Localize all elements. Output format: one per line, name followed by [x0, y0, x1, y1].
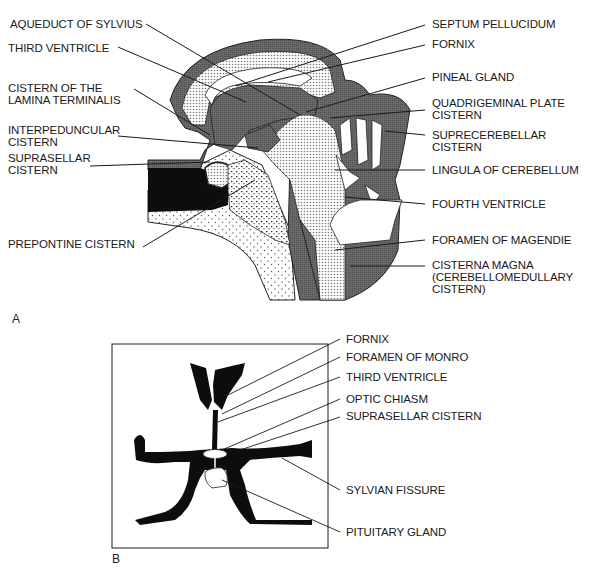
label-suprecerebellar-2: CISTERN: [432, 141, 482, 153]
pituitary-b: [205, 468, 227, 488]
label-prepontine: PREPONTINE CISTERN: [8, 238, 135, 250]
label-b-third-ventricle: THIRD VENTRICLE: [346, 371, 447, 383]
label-b-foramen-monro: FORAMEN OF MONRO: [346, 351, 468, 363]
label-lamina-terminalis-2: LAMINA TERMINALIS: [8, 94, 120, 106]
panel-b-letter: B: [112, 552, 120, 566]
label-cisterna-magna-2: (CEREBELLOMEDULLARY: [432, 271, 573, 283]
panel-a-letter: A: [12, 312, 20, 326]
label-quadrigeminal-2: CISTERN: [432, 109, 482, 121]
label-suprasellar-2: CISTERN: [8, 164, 58, 176]
label-lamina-terminalis-1: CISTERN OF THE: [8, 82, 102, 94]
label-b-fornix: FORNIX: [346, 333, 389, 345]
label-b-pituitary: PITUITARY GLAND: [346, 526, 446, 538]
label-b-suprasellar: SUPRASELLAR CISTERN: [346, 410, 482, 422]
label-fourth-ventricle: FOURTH VENTRICLE: [432, 198, 546, 210]
label-b-optic-chiasm: OPTIC CHIASM: [346, 393, 428, 405]
label-suprasellar-1: SUPRASELLAR: [8, 152, 91, 164]
label-foramen-magendie: FORAMEN OF MAGENDIE: [432, 234, 571, 246]
label-aqueduct: AQUEDUCT OF SYLVIUS: [10, 18, 143, 30]
label-cisterna-magna-1: CISTERNA MAGNA: [432, 259, 533, 271]
label-cisterna-magna-3: CISTERN): [432, 283, 486, 295]
label-interpeduncular-2: CISTERN: [8, 136, 58, 148]
label-interpeduncular-1: INTERPEDUNCULAR: [8, 124, 120, 136]
label-lingula: LINGULA OF CEREBELLUM: [432, 164, 579, 176]
label-suprecerebellar-1: SUPRECEREBELLAR: [432, 129, 546, 141]
label-fornix: FORNIX: [432, 38, 475, 50]
label-b-sylvian-fissure: SYLVIAN FISSURE: [346, 484, 445, 496]
label-third-ventricle: THIRD VENTRICLE: [8, 42, 109, 54]
label-septum-pellucidum: SEPTUM PELLUCIDUM: [432, 18, 556, 30]
optic-chiasm-b: [203, 450, 227, 459]
label-pineal-gland: PINEAL GLAND: [432, 71, 514, 83]
label-quadrigeminal-1: QUADRIGEMINAL PLATE: [432, 97, 565, 109]
